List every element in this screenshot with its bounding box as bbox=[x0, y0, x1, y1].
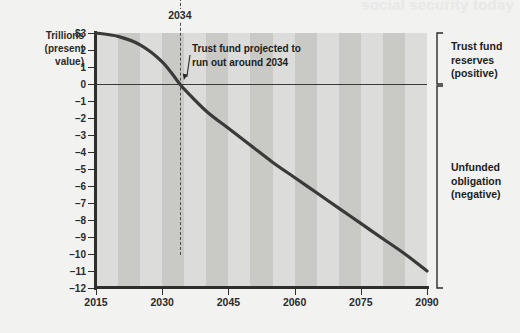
y-tick bbox=[88, 254, 94, 255]
y-tick-label: –8 bbox=[75, 215, 86, 226]
x-tick bbox=[295, 289, 296, 295]
bracket-lower-line-1: Unfunded bbox=[451, 161, 501, 175]
y-tick-label: –4 bbox=[75, 147, 86, 158]
annotation-line-2: run out around 2034 bbox=[192, 56, 301, 70]
bracket-label-trust-fund-reserves: Trust fund reserves (positive) bbox=[451, 40, 502, 81]
chart-figure: social security today Trillions(presentv… bbox=[0, 0, 520, 333]
y-tick-label: –12 bbox=[69, 283, 86, 294]
y-tick bbox=[88, 118, 94, 119]
x-tick bbox=[427, 289, 428, 295]
y-tick-label: –7 bbox=[75, 198, 86, 209]
annotation-line-1: Trust fund projected to bbox=[192, 42, 301, 56]
y-tick-label: –3 bbox=[75, 130, 86, 141]
y-tick bbox=[88, 152, 94, 153]
y-tick bbox=[88, 84, 94, 85]
x-tick bbox=[162, 289, 163, 295]
y-tick bbox=[88, 135, 94, 136]
bracket-upper-line-1: Trust fund bbox=[451, 40, 502, 54]
y-tick-label: –10 bbox=[69, 249, 86, 260]
y-tick bbox=[88, 237, 94, 238]
bracket-lower-line-3: (negative) bbox=[451, 188, 501, 202]
y-tick bbox=[88, 220, 94, 221]
y-tick bbox=[88, 186, 94, 187]
y-tick-label: 2 bbox=[80, 45, 86, 56]
y-tick-label: –11 bbox=[70, 266, 86, 277]
y-tick-label: –2 bbox=[75, 113, 86, 124]
x-tick-label: 2030 bbox=[151, 296, 174, 308]
bracket-upper-line-2: reserves bbox=[451, 54, 502, 68]
y-tick-label: –9 bbox=[75, 232, 86, 243]
y-tick-label: 1 bbox=[80, 62, 86, 73]
bracket-upper-line-3: (positive) bbox=[451, 67, 502, 81]
y-tick bbox=[88, 67, 94, 68]
y-tick-label: –1 bbox=[75, 96, 86, 107]
y-tick-label: $3 bbox=[75, 28, 86, 39]
x-tick-label: 2075 bbox=[349, 296, 372, 308]
y-tick bbox=[88, 203, 94, 204]
y-tick bbox=[88, 101, 94, 102]
x-tick-label: 2090 bbox=[415, 296, 438, 308]
x-tick bbox=[228, 289, 229, 295]
reference-line-label-2034: 2034 bbox=[165, 9, 194, 21]
bracket-label-unfunded-obligation: Unfunded obligation (negative) bbox=[451, 161, 501, 202]
x-tick-label: 2060 bbox=[283, 296, 306, 308]
x-tick bbox=[96, 289, 97, 295]
y-tick bbox=[88, 169, 94, 170]
y-tick-label: –5 bbox=[75, 164, 86, 175]
x-tick-label: 2045 bbox=[217, 296, 240, 308]
bracket-lower-line-2: obligation bbox=[451, 175, 501, 189]
y-tick bbox=[88, 33, 94, 34]
y-tick bbox=[88, 271, 94, 272]
y-tick-label: –6 bbox=[75, 181, 86, 192]
y-tick-label: 0 bbox=[80, 79, 86, 90]
y-tick bbox=[88, 50, 94, 51]
x-tick-label: 2015 bbox=[84, 296, 107, 308]
y-tick bbox=[88, 288, 94, 289]
x-tick bbox=[361, 289, 362, 295]
annotation-callout: Trust fund projected to run out around 2… bbox=[192, 42, 301, 69]
